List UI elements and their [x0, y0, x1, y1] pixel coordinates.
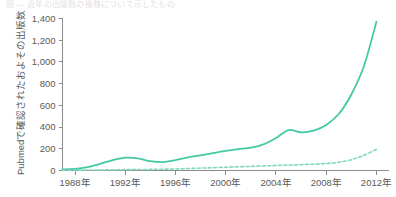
x-tick-label: 2012年 [361, 177, 392, 188]
y-tick-label: 1,400 [32, 13, 56, 24]
y-tick-label: 0 [50, 165, 55, 176]
y-tick-label: 1,000 [32, 56, 56, 67]
y-tick-label: 800 [40, 78, 56, 89]
line-chart-svg: 02004006008001,0001,2001,400 1988年1992年1… [0, 0, 396, 197]
y-tick-label: 400 [40, 121, 56, 132]
y-tick-label: 200 [40, 143, 56, 154]
x-tick-label: 2004年 [260, 177, 291, 188]
y-axis-ticks: 02004006008001,0001,2001,400 [32, 13, 63, 176]
series-line-solid-series [63, 22, 377, 170]
chart-figure: 図 ― 近年の出版数の推移について示したもの Pubmedで確認されたおよその出… [0, 0, 396, 197]
data-series-group [63, 22, 377, 171]
x-tick-label: 1992年 [110, 177, 141, 188]
x-tick-label: 2008年 [311, 177, 342, 188]
x-tick-label: 2000年 [210, 177, 241, 188]
y-tick-label: 600 [40, 100, 56, 111]
y-tick-label: 1,200 [32, 35, 56, 46]
x-tick-label: 1988年 [59, 177, 90, 188]
plot-area: 02004006008001,0001,2001,400 1988年1992年1… [0, 0, 396, 197]
x-axis-ticks: 1988年1992年1996年2000年2004年2008年2012年 [59, 171, 392, 188]
x-tick-label: 1996年 [160, 177, 191, 188]
